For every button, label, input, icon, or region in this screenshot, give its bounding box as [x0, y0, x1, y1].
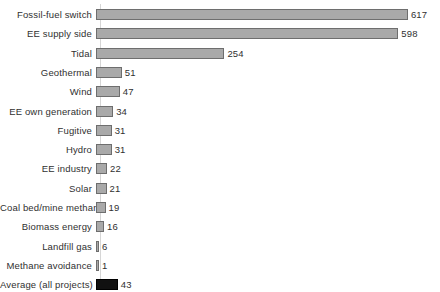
bar-track: 47	[96, 82, 440, 101]
category-label: Coal bed/mine methane	[0, 202, 96, 213]
bar-track: 34	[96, 102, 440, 121]
category-label: EE supply side	[0, 28, 96, 39]
bar-value-label: 51	[122, 67, 136, 78]
bar-track: 1	[96, 256, 440, 275]
bar-track: 617	[96, 5, 440, 24]
bar-row: Fugitive31	[0, 121, 440, 140]
bar-value-label: 43	[118, 279, 132, 290]
category-label: Fugitive	[0, 125, 96, 136]
bar-track: 19	[96, 198, 440, 217]
bar-track: 21	[96, 179, 440, 198]
category-label: Wind	[0, 86, 96, 97]
bar-row: EE industry22	[0, 159, 440, 178]
bar-value-label: 6	[99, 241, 107, 252]
bar	[96, 86, 120, 97]
bar-track: 16	[96, 217, 440, 236]
bar-row: EE supply side598	[0, 24, 440, 43]
bar-track: 6	[96, 237, 440, 256]
category-label: Geothermal	[0, 67, 96, 78]
bar-value-label: 34	[113, 106, 127, 117]
bar-track: 31	[96, 121, 440, 140]
bar-row: Average (all projects)43	[0, 275, 440, 292]
bar-track: 254	[96, 44, 440, 63]
bar	[96, 144, 112, 155]
category-label: Landfill gas	[0, 241, 96, 252]
bar-row: Hydro31	[0, 140, 440, 159]
category-label: EE own generation	[0, 106, 96, 117]
bar-row: Methane avoidance1	[0, 256, 440, 275]
bar-chart: Fossil-fuel switch617EE supply side598Ti…	[0, 0, 440, 292]
bar-value-label: 31	[112, 125, 126, 136]
bar-row: Fossil-fuel switch617	[0, 5, 440, 24]
bar	[96, 28, 398, 39]
bar-row: Geothermal51	[0, 63, 440, 82]
bar-track: 598	[96, 24, 440, 43]
bar	[96, 183, 107, 194]
bar-row: Landfill gas6	[0, 237, 440, 256]
bar-value-label: 19	[106, 202, 120, 213]
bar	[96, 163, 107, 174]
bar	[96, 67, 122, 78]
bar-track: 31	[96, 140, 440, 159]
bar-row: Wind47	[0, 82, 440, 101]
category-label: Tidal	[0, 48, 96, 59]
bar-row: Coal bed/mine methane19	[0, 198, 440, 217]
bar-track: 22	[96, 159, 440, 178]
bar	[96, 125, 112, 136]
bar	[96, 48, 224, 59]
category-label: Fossil-fuel switch	[0, 9, 96, 20]
bar-row: Biomass energy16	[0, 217, 440, 236]
category-label: Methane avoidance	[0, 260, 96, 271]
bar-track: 43	[96, 275, 440, 292]
bar-track: 51	[96, 63, 440, 82]
category-label: Biomass energy	[0, 221, 96, 232]
plot-area: Fossil-fuel switch617EE supply side598Ti…	[0, 0, 440, 292]
bar-value-label: 617	[408, 9, 427, 20]
bar	[96, 279, 118, 290]
category-label: EE industry	[0, 163, 96, 174]
bar-value-label: 1	[99, 260, 107, 271]
bar-row: Tidal254	[0, 44, 440, 63]
bar-row: EE own generation34	[0, 102, 440, 121]
category-label: Hydro	[0, 144, 96, 155]
bar-value-label: 16	[104, 221, 118, 232]
bar-value-label: 254	[224, 48, 243, 59]
bar-row: Solar21	[0, 179, 440, 198]
bar-value-label: 21	[107, 183, 121, 194]
bar	[96, 9, 408, 20]
category-label: Solar	[0, 183, 96, 194]
bar-value-label: 47	[120, 86, 134, 97]
category-label: Average (all projects)	[0, 279, 96, 290]
bar	[96, 202, 106, 213]
bar	[96, 221, 104, 232]
bar-value-label: 31	[112, 144, 126, 155]
bar	[96, 106, 113, 117]
bar-value-label: 22	[107, 163, 121, 174]
bar-value-label: 598	[398, 28, 417, 39]
